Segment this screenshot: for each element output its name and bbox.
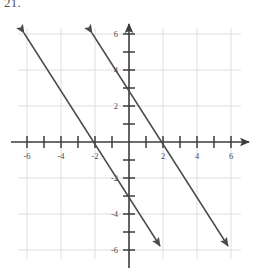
coordinate-plane-graph: -6 -4 -2 2 4 6 6 4 2 -2 -4 -6 [0, 0, 261, 276]
y-tick-label: 6 [114, 29, 118, 39]
y-tick-label: -6 [111, 245, 118, 255]
graph-svg: -6 -4 -2 2 4 6 6 4 2 -2 -4 -6 [0, 0, 261, 276]
x-tick-label: 6 [229, 151, 233, 161]
x-tick-label: 4 [195, 151, 200, 161]
x-tick-label: 2 [161, 151, 165, 161]
x-tick-label: -6 [23, 151, 30, 161]
x-tick-label: -2 [91, 151, 98, 161]
y-tick-label: 2 [114, 101, 118, 111]
y-tick-label: -4 [111, 209, 119, 219]
x-tick-label: -4 [57, 151, 65, 161]
